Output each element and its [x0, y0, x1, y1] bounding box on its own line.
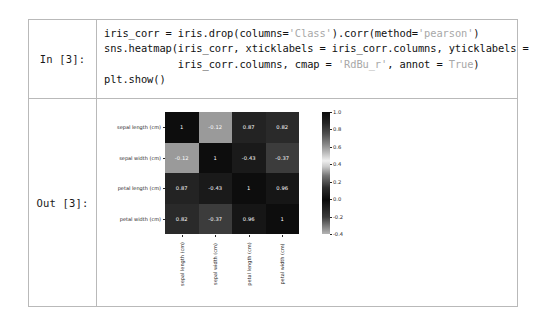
- heatmap-cell-value: 1: [214, 155, 217, 161]
- x-axis-tick-labels: sepal length (cm)sepal width (cm)petal l…: [165, 235, 299, 297]
- code-source[interactable]: iris_corr = iris.drop(columns='Class').c…: [97, 20, 529, 88]
- x-tick-label: sepal length (cm): [179, 242, 185, 286]
- input-prompt-label: In [3]:: [29, 20, 97, 98]
- x-tick-mark: [249, 235, 250, 237]
- heatmap-cell: -0.12: [165, 143, 199, 174]
- colorbar-tick-label: 0.8: [330, 126, 341, 132]
- code-line-3-part-c: ): [473, 58, 479, 70]
- code-line-3-keyword-true: True: [449, 58, 474, 70]
- colorbar-tick-label: 0.0: [330, 196, 341, 202]
- x-tick-mark: [282, 235, 283, 237]
- code-line-1-part-c: ): [473, 27, 479, 39]
- y-tick-label: sepal width (cm): [119, 155, 163, 161]
- x-tick-label: petal length (cm): [246, 242, 252, 285]
- heatmap-cell: 0.87: [165, 173, 199, 204]
- heatmap-cell: -0.43: [199, 173, 233, 204]
- code-line-4: plt.show(): [104, 73, 166, 85]
- heatmap-cell-value: -0.12: [175, 155, 189, 161]
- colorbar-tick-label: -0.2: [330, 214, 343, 220]
- x-tick-label: petal width (cm): [279, 243, 285, 284]
- heatmap-cell-value: 0.87: [243, 124, 255, 130]
- x-tick-wrap: sepal width (cm): [199, 235, 233, 297]
- code-line-3-part-a: iris_corr.columns, cmap =: [104, 58, 338, 70]
- code-line-3-part-b: , annot =: [387, 58, 449, 70]
- output-cell-body: sepal length (cm)sepal width (cm)petal l…: [97, 99, 517, 306]
- heatmap-cell: -0.12: [199, 112, 233, 143]
- heatmap-cell-value: 1: [247, 185, 250, 191]
- code-line-1-part-b: ).corr(method=: [332, 27, 418, 39]
- heatmap-cell: 0.87: [232, 112, 266, 143]
- heatmap-cell-value: 0.96: [276, 185, 288, 191]
- x-tick-wrap: petal width (cm): [266, 235, 300, 297]
- output-prompt-label: Out [3]:: [29, 99, 97, 306]
- heatmap-cell-value: -0.43: [208, 185, 222, 191]
- y-axis-tick-labels: sepal length (cm)sepal width (cm)petal l…: [100, 112, 163, 234]
- colorbar-gradient: [322, 112, 330, 234]
- heatmap-cell-value: -0.12: [208, 124, 222, 130]
- y-tick-label: sepal length (cm): [117, 124, 163, 130]
- heatmap-cell-value: 1: [281, 216, 284, 222]
- heatmap-cell: -0.43: [232, 143, 266, 174]
- heatmap-figure: sepal length (cm)sepal width (cm)petal l…: [97, 99, 519, 306]
- heatmap-cell-value: 0.82: [176, 216, 188, 222]
- heatmap-cell: -0.37: [199, 204, 233, 235]
- notebook-input-row: In [3]: iris_corr = iris.drop(columns='C…: [29, 20, 517, 99]
- heatmap-cell: 1: [165, 112, 199, 143]
- x-tick-label: sepal width (cm): [212, 243, 218, 285]
- heatmap-cell-value: -0.37: [208, 216, 222, 222]
- heatmap-cell-value: 0.96: [243, 216, 255, 222]
- code-line-1-part-a: iris_corr = iris.drop(columns=: [104, 27, 289, 39]
- heatmap-cell: 1: [232, 173, 266, 204]
- colorbar-tick-label: 1.0: [330, 109, 341, 115]
- heatmap-cell-value: 1: [180, 124, 183, 130]
- colorbar-tick-label: 0.4: [330, 161, 341, 167]
- heatmap-cell-value: 0.82: [276, 124, 288, 130]
- heatmap-cell: 0.96: [232, 204, 266, 235]
- x-tick-mark: [182, 235, 183, 237]
- code-line-1-string-class: 'Class': [289, 27, 332, 39]
- input-cell-body[interactable]: iris_corr = iris.drop(columns='Class').c…: [97, 20, 529, 98]
- y-tick-label: petal width (cm): [120, 216, 163, 222]
- code-line-1-string-pearson: 'pearson': [418, 27, 473, 39]
- heatmap-cell: -0.37: [266, 143, 300, 174]
- notebook-cell-table: In [3]: iris_corr = iris.drop(columns='C…: [28, 19, 518, 307]
- code-line-2: sns.heatmap(iris_corr, xticklabels = iri…: [104, 42, 529, 54]
- heatmap-cell-value: -0.37: [275, 155, 289, 161]
- colorbar-tick-labels: 1.00.80.60.40.20.0-0.2-0.4: [330, 112, 370, 234]
- y-tick-label: petal length (cm): [118, 185, 163, 191]
- heatmap-cell: 1: [199, 143, 233, 174]
- x-tick-mark: [215, 235, 216, 237]
- notebook-output-row: Out [3]: sepal length (cm)sepal width (c…: [29, 99, 517, 306]
- colorbar-tick-label: 0.2: [330, 179, 341, 185]
- colorbar-tick-label: -0.4: [330, 231, 343, 237]
- heatmap-cell: 0.82: [165, 204, 199, 235]
- code-line-3-string-cmap: 'RdBu_r': [338, 58, 387, 70]
- heatmap-cell: 0.82: [266, 112, 300, 143]
- heatmap-cell-value: 0.87: [176, 185, 188, 191]
- heatmap-cell-value: -0.43: [242, 155, 256, 161]
- heatmap-grid: 1-0.120.870.82-0.121-0.43-0.370.87-0.431…: [165, 112, 299, 234]
- heatmap-cell: 0.96: [266, 173, 300, 204]
- x-tick-wrap: sepal length (cm): [165, 235, 199, 297]
- x-tick-wrap: petal length (cm): [232, 235, 266, 297]
- heatmap-cell: 1: [266, 204, 300, 235]
- colorbar-tick-label: 0.6: [330, 144, 341, 150]
